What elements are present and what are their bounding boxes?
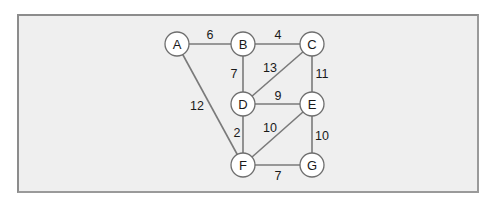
node-label: D xyxy=(238,97,247,112)
edge-weight-c-d: 13 xyxy=(263,61,277,75)
edge-weight-d-f: 2 xyxy=(234,126,241,140)
edge-weight-a-b: 6 xyxy=(207,28,214,42)
node-label: B xyxy=(239,37,248,52)
graph-canvas: 6471311129210107 ABCDEFG xyxy=(0,0,494,202)
edge-weight-e-g: 10 xyxy=(315,129,329,143)
edge-weight-b-c: 4 xyxy=(275,28,282,42)
node-label: E xyxy=(308,97,317,112)
node-label: G xyxy=(307,158,317,173)
node-label: F xyxy=(239,158,247,173)
edge-weight-b-d: 7 xyxy=(231,67,238,81)
edge-weight-a-f: 12 xyxy=(190,99,204,113)
edge-weight-d-e: 9 xyxy=(275,89,282,103)
edge-weight-c-e: 11 xyxy=(316,67,329,81)
node-c: C xyxy=(300,32,324,56)
node-label: A xyxy=(173,37,182,52)
node-f: F xyxy=(231,153,255,177)
node-label: C xyxy=(307,37,316,52)
node-d: D xyxy=(231,92,255,116)
node-g: G xyxy=(300,153,324,177)
node-a: A xyxy=(165,32,189,56)
edge-weight-f-g: 7 xyxy=(275,169,282,183)
node-e: E xyxy=(300,92,324,116)
edge-weight-e-f: 10 xyxy=(263,121,277,135)
edge-e-f xyxy=(243,104,312,165)
node-b: B xyxy=(231,32,255,56)
